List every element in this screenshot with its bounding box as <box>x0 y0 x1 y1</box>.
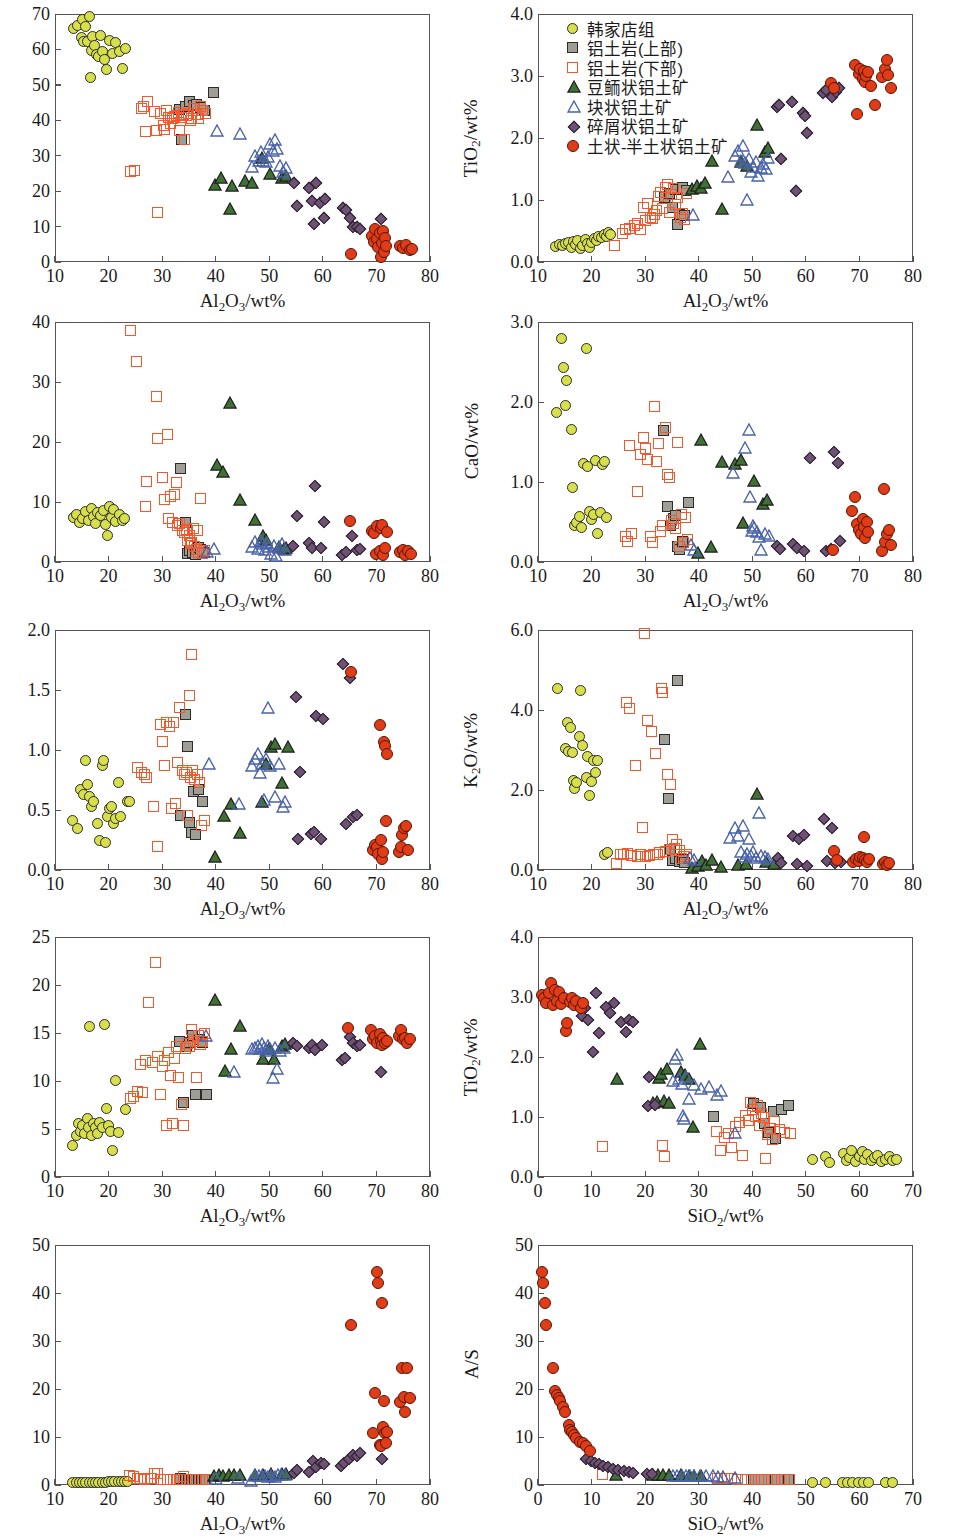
figure-geochemical-scatter-panels: 0102030405060701020304050607080Al2O3/wt%… <box>0 0 957 1539</box>
y-axis-title: A/S <box>461 1244 483 1484</box>
y-tick-label: 40 <box>490 1283 533 1304</box>
triangle-marker-icon <box>566 100 582 116</box>
legend-item-4[interactable]: 豆鲕状铝土矿 <box>566 79 729 99</box>
x-tickmark <box>752 1479 753 1485</box>
chart-panel-p10: 01020304050010203040506070SiO2/wt%A/S <box>0 0 957 1539</box>
y-tickmark <box>538 1389 544 1390</box>
y-tickmark <box>538 1293 544 1294</box>
x-tick-label: 30 <box>690 1489 708 1510</box>
x-tickmark <box>537 1479 538 1485</box>
legend-label: 块状铝土矿 <box>587 100 672 117</box>
plot-area-p10 <box>538 1245 913 1485</box>
legend-label: 豆鲕状铝土矿 <box>587 80 689 97</box>
legend-label: 韩家店组 <box>587 22 655 39</box>
x-tick-label: 60 <box>850 1489 868 1510</box>
x-axis-title: SiO2/wt% <box>687 1513 763 1538</box>
legend: 韩家店组铝土岩(上部)铝土岩(下部)豆鲕状铝土矿块状铝土矿碎屑状铝土矿土状-半土… <box>566 20 729 157</box>
y-tick-label: 20 <box>490 1379 533 1400</box>
x-tick-label: 40 <box>743 1489 761 1510</box>
triangle-marker-icon <box>566 80 582 96</box>
x-tickmark <box>645 1479 646 1485</box>
legend-item-6[interactable]: 碎屑状铝土矿 <box>566 118 729 138</box>
legend-label: 碎屑状铝土矿 <box>587 119 689 136</box>
y-tick-label: 30 <box>490 1331 533 1352</box>
y-tickmark <box>538 1245 544 1246</box>
legend-label: 铝土岩(下部) <box>587 61 683 78</box>
x-tick-label: 20 <box>636 1489 654 1510</box>
y-tick-label: 10 <box>490 1427 533 1448</box>
x-tick-label: 10 <box>583 1489 601 1510</box>
x-tickmark <box>912 1479 913 1485</box>
circle-marker-icon <box>566 22 582 38</box>
legend-label: 铝土岩(上部) <box>587 41 683 58</box>
x-tickmark <box>805 1479 806 1485</box>
circle-marker-icon <box>566 139 582 155</box>
legend-item-3[interactable]: 铝土岩(下部) <box>566 59 729 79</box>
square-marker-icon <box>566 41 582 57</box>
x-tick-label: 70 <box>904 1489 922 1510</box>
legend-item-1[interactable]: 韩家店组 <box>566 20 729 40</box>
x-tickmark <box>859 1479 860 1485</box>
square-marker-icon <box>566 61 582 77</box>
y-tickmark <box>538 1485 544 1486</box>
legend-item-2[interactable]: 铝土岩(上部) <box>566 40 729 60</box>
y-tickmark <box>538 1341 544 1342</box>
legend-item-7[interactable]: 土状-半土状铝土矿 <box>566 137 729 157</box>
y-tick-label: 0 <box>490 1475 533 1496</box>
y-tickmark <box>538 1437 544 1438</box>
legend-item-5[interactable]: 块状铝土矿 <box>566 98 729 118</box>
x-tick-label: 50 <box>797 1489 815 1510</box>
legend-label: 土状-半土状铝土矿 <box>587 139 729 156</box>
diamond-marker-icon <box>566 119 582 135</box>
x-tickmark <box>591 1479 592 1485</box>
y-tick-label: 50 <box>490 1235 533 1256</box>
x-tickmark <box>698 1479 699 1485</box>
x-tick-label: 0 <box>534 1489 543 1510</box>
